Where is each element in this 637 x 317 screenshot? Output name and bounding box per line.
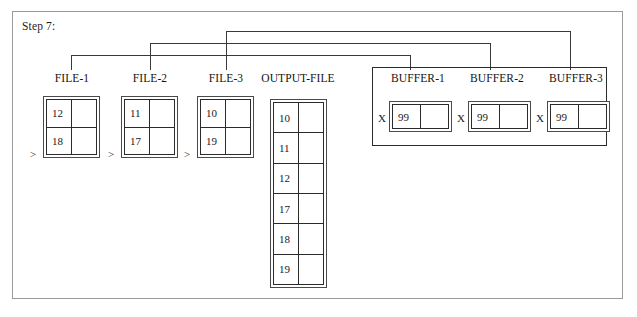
cell-value: 99 [551,105,579,128]
cell-value: 18 [274,224,299,253]
cell-value: 11 [125,100,150,127]
file-2-read-pointer: > [108,149,114,160]
cell-value: 19 [201,128,226,155]
file-1-box: 12 18 [43,96,100,158]
table-row: 99 [551,105,606,128]
cell-value: 10 [201,100,226,127]
cell-empty [421,105,449,128]
cell-empty [72,128,97,155]
table-row: 19 [201,128,250,155]
buffer-1-label: BUFFER-1 [378,72,458,84]
buffer-3-label: BUFFER-3 [536,72,616,84]
cell-empty [299,224,324,253]
cell-value: 11 [274,133,299,162]
buffer-3-box: 99 [547,101,610,132]
cell-value: 12 [274,164,299,193]
cell-empty [500,105,528,128]
cell-empty [299,255,324,284]
table-row: 10 [274,103,323,133]
buffer-1-marker: X [378,113,386,124]
table-row: 11 [274,133,323,163]
step-caption: Step 7: [22,20,55,32]
table-row: 18 [47,128,96,155]
cell-empty [299,103,324,132]
cell-empty [226,128,251,155]
cell-empty [579,105,607,128]
cell-empty [299,133,324,162]
cell-empty [72,100,97,127]
buffer-2-box: 99 [468,101,531,132]
output-file-label: OUTPUT-FILE [247,72,349,84]
cell-value: 10 [274,103,299,132]
buffer-1-box: 99 [389,101,452,132]
table-row: 99 [472,105,527,128]
cell-empty [299,164,324,193]
table-row: 19 [274,255,323,284]
diagram-canvas: Step 7: FILE-1 12 18 > FILE-2 [0,0,637,317]
cell-value: 17 [274,194,299,223]
buffer-2-marker: X [457,113,465,124]
table-row: 11 [125,100,174,128]
cell-value: 12 [47,100,72,127]
cell-value: 18 [47,128,72,155]
table-row: 10 [201,100,250,128]
cell-empty [150,128,175,155]
buffer-2-label: BUFFER-2 [457,72,537,84]
table-row: 12 [274,164,323,194]
cell-empty [226,100,251,127]
cell-value: 19 [274,255,299,284]
cell-empty [299,194,324,223]
file-2-box: 11 17 [121,96,178,158]
cell-value: 99 [472,105,500,128]
table-row: 99 [393,105,448,128]
table-row: 17 [125,128,174,155]
cell-value: 99 [393,105,421,128]
file-3-box: 10 19 [197,96,254,158]
file-3-read-pointer: > [184,149,190,160]
file-1-read-pointer: > [30,149,36,160]
cell-empty [150,100,175,127]
table-row: 18 [274,224,323,254]
table-row: 12 [47,100,96,128]
buffer-3-marker: X [536,113,544,124]
cell-value: 17 [125,128,150,155]
output-file-box: 10 11 12 17 18 19 [270,99,327,288]
table-row: 17 [274,194,323,224]
